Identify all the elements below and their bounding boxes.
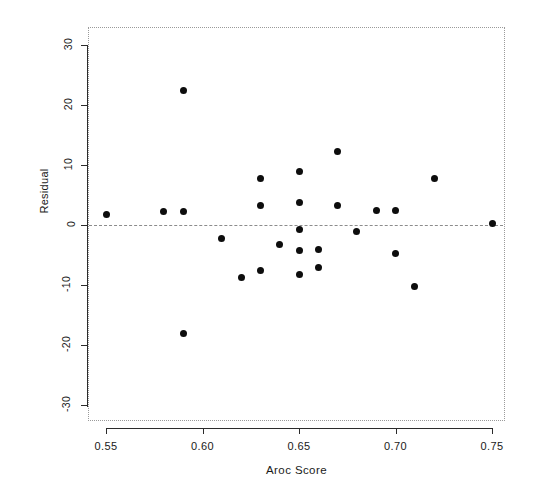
x-tick-label: 0.60	[173, 440, 233, 452]
y-tick-mark	[81, 405, 87, 406]
y-tick-mark	[81, 105, 87, 106]
y-tick-mark	[81, 45, 87, 46]
y-tick-label-text: -30	[60, 396, 72, 412]
y-tick-label-text: 10	[62, 158, 74, 170]
data-point	[392, 207, 399, 214]
x-tick-mark	[492, 428, 493, 434]
y-tick-label: -30	[0, 398, 74, 410]
y-axis-title: Residual	[4, 185, 84, 197]
y-tick-label-text: -10	[60, 276, 72, 292]
y-tick-label-text: 30	[62, 38, 74, 50]
x-tick-mark	[299, 428, 300, 434]
data-point	[296, 168, 303, 175]
data-point	[315, 264, 322, 271]
data-point	[180, 330, 187, 337]
zero-reference-line	[89, 225, 503, 226]
x-tick-mark	[396, 428, 397, 434]
x-axis-title: Aroc Score	[88, 464, 505, 476]
data-point	[315, 246, 322, 253]
y-tick-label-text: -20	[60, 336, 72, 352]
x-tick-label: 0.70	[366, 440, 426, 452]
x-tick-mark	[203, 428, 204, 434]
x-tick-mark	[106, 428, 107, 434]
data-point	[238, 274, 245, 281]
y-tick-mark	[81, 345, 87, 346]
y-tick-label: 30	[0, 38, 74, 50]
data-point	[353, 228, 360, 235]
y-tick-label: 20	[0, 98, 74, 110]
x-tick-label: 0.65	[269, 440, 329, 452]
y-tick-mark	[81, 285, 87, 286]
data-point	[218, 235, 225, 242]
y-tick-mark	[81, 165, 87, 166]
data-point	[180, 208, 187, 215]
data-point	[103, 211, 110, 218]
x-tick-label: 0.75	[462, 440, 522, 452]
data-point	[257, 175, 264, 182]
y-tick-label-text: 0	[65, 221, 77, 227]
data-point	[296, 199, 303, 206]
data-point	[411, 283, 418, 290]
y-axis-line	[87, 45, 88, 407]
data-point	[296, 247, 303, 254]
residual-scatter-plot: 3020100-10-20-30 0.550.600.650.700.75 Re…	[0, 0, 537, 503]
y-tick-label: -10	[0, 278, 74, 290]
data-point	[180, 87, 187, 94]
y-tick-label: -20	[0, 338, 74, 350]
y-tick-label-text: 20	[62, 98, 74, 110]
data-point	[296, 226, 303, 233]
plot-area	[88, 27, 505, 421]
x-tick-label: 0.55	[76, 440, 136, 452]
data-point	[296, 271, 303, 278]
y-tick-mark	[81, 225, 87, 226]
data-point	[257, 202, 264, 209]
data-point	[257, 267, 264, 274]
y-axis-title-text: Residual	[38, 168, 50, 213]
y-tick-label: 0	[0, 218, 74, 230]
data-point	[373, 207, 380, 214]
data-point	[431, 175, 438, 182]
data-point	[489, 220, 496, 227]
